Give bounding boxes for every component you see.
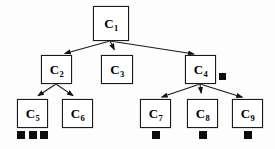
- tree-diagram: C1C2C3C4C5C6C7C8C9: [0, 0, 275, 149]
- edge-c1-to-c3: [110, 41, 114, 50]
- tree-node-c9[interactable]: C9: [232, 99, 263, 128]
- edge-c2-to-c5: [38, 84, 56, 96]
- tree-node-label-c4: C4: [194, 63, 208, 76]
- tree-node-c2[interactable]: C2: [41, 55, 72, 84]
- edge-c2-to-c6: [56, 84, 73, 96]
- tree-node-label-c2: C2: [50, 63, 64, 76]
- tree-node-subscript-c6: 6: [81, 113, 85, 123]
- square-marker-icon-c7-4: [152, 131, 160, 139]
- square-marker-icon-c4-0: [219, 73, 226, 80]
- edge-c1-to-c4: [110, 41, 194, 54]
- square-marker-icon-c5-3: [40, 131, 48, 139]
- tree-node-c5[interactable]: C5: [17, 99, 48, 128]
- square-marker-icon-c5-2: [29, 131, 37, 139]
- tree-node-c6[interactable]: C6: [62, 99, 93, 128]
- tree-node-label-c9: C9: [241, 107, 255, 120]
- edge-c1-to-c2: [65, 41, 110, 53]
- tree-node-label-c5: C5: [26, 107, 40, 120]
- tree-node-label-c1: C1: [104, 17, 118, 30]
- tree-node-c8[interactable]: C8: [187, 99, 218, 128]
- tree-node-label-c3: C3: [110, 63, 124, 76]
- tree-node-subscript-c4: 4: [204, 69, 208, 79]
- square-marker-icon-c9-6: [244, 131, 252, 139]
- edge-c4-to-c9: [200, 84, 242, 97]
- square-marker-icon-c8-5: [199, 131, 207, 139]
- square-marker-icon-c5-1: [17, 131, 25, 139]
- tree-node-label-c7: C7: [149, 107, 163, 120]
- tree-node-subscript-c7: 7: [159, 113, 163, 123]
- edge-c4-to-c8: [200, 84, 201, 93]
- tree-node-subscript-c8: 8: [206, 113, 210, 123]
- tree-node-c1[interactable]: C1: [93, 6, 129, 41]
- tree-node-label-c6: C6: [71, 107, 85, 120]
- tree-node-subscript-c5: 5: [36, 113, 40, 123]
- tree-node-label-c8: C8: [196, 107, 210, 120]
- tree-node-subscript-c1: 1: [114, 23, 118, 33]
- tree-node-subscript-c3: 3: [120, 69, 124, 79]
- edge-c4-to-c7: [162, 84, 200, 97]
- tree-node-c4[interactable]: C4: [185, 55, 216, 84]
- tree-node-c7[interactable]: C7: [140, 99, 171, 128]
- tree-node-subscript-c2: 2: [60, 69, 64, 79]
- tree-node-c3[interactable]: C3: [101, 55, 133, 84]
- tree-node-subscript-c9: 9: [251, 113, 255, 123]
